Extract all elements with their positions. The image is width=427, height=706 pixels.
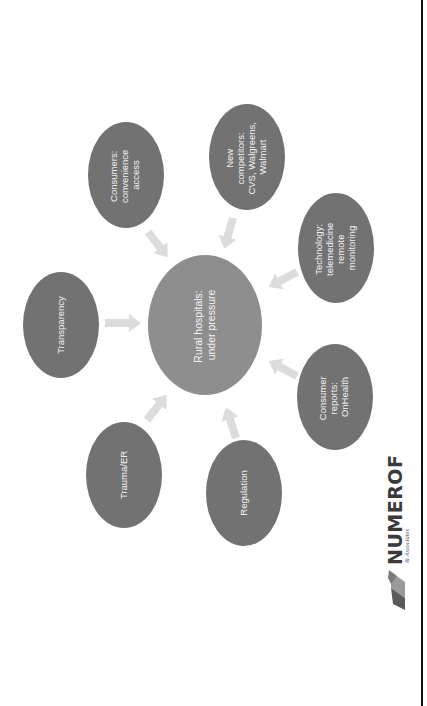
node-label-line: New bbox=[224, 149, 235, 168]
node-consumer-reports: Consumer reports: OnHealth bbox=[297, 344, 373, 450]
node-label-line: OnHealth bbox=[339, 377, 350, 417]
node-label-line: Consumer bbox=[317, 376, 328, 420]
svg-text:Regulation: Regulation bbox=[238, 470, 249, 515]
node-trauma-er: Trauma/ER bbox=[86, 422, 162, 528]
arrow-consumers bbox=[141, 226, 175, 262]
node-label-line: reports: bbox=[328, 382, 339, 414]
arrow-regulation bbox=[218, 405, 245, 441]
arrow-consumer-reports bbox=[265, 353, 302, 384]
node-label-line: Transparency bbox=[55, 296, 66, 354]
center-label-line-2: under pressure bbox=[205, 290, 217, 361]
node-label-line: telemedicine bbox=[324, 223, 335, 276]
node-label-line: access bbox=[130, 160, 141, 190]
node-label-line: Walmart bbox=[257, 139, 268, 174]
slide-canvas: Rural hospitals: under pressure Consumer… bbox=[0, 0, 427, 706]
arrow-new-competitors bbox=[216, 216, 242, 252]
node-regulation: Regulation bbox=[206, 440, 282, 546]
svg-text:Consumer reports:: Consumer reports: OnHealth bbox=[317, 374, 350, 420]
svg-text:Rural hospitals: under: Rural hospitals: under pressure bbox=[192, 287, 217, 362]
arrow-trauma-er bbox=[140, 389, 174, 425]
node-label-line: Trauma/ER bbox=[118, 451, 129, 499]
node-label-line: Technology: bbox=[313, 224, 324, 275]
node-transparency: Transparency bbox=[23, 272, 99, 378]
svg-text:Trauma/ER: Trauma/ER bbox=[118, 451, 129, 499]
diagram-svg: Rural hospitals: under pressure Consumer… bbox=[0, 0, 427, 706]
node-consumers: Consumers: convenience access bbox=[88, 122, 164, 228]
node-label-line: monitoring bbox=[346, 226, 357, 270]
node-technology: Technology: telemedicine remote monitori… bbox=[298, 193, 374, 303]
page-edge-rule bbox=[421, 0, 423, 706]
numerof-logo-mark-icon bbox=[388, 570, 405, 610]
numerof-logo: NUMEROF & Associates bbox=[384, 455, 410, 610]
center-node-rural-hospitals: Rural hospitals: under pressure bbox=[148, 255, 262, 395]
logo-tagline: & Associates bbox=[403, 529, 410, 563]
node-new-competitors: New competitors: CVS, Walgreens, Walmart bbox=[209, 104, 285, 210]
arrow-technology bbox=[265, 264, 302, 295]
node-label-line: Regulation bbox=[238, 470, 249, 515]
node-label-line: Consumers: bbox=[108, 151, 119, 202]
node-label-line: remote bbox=[335, 235, 346, 265]
center-label-line-1: Rural hospitals: bbox=[192, 290, 204, 362]
node-label-line: CVS, Walgreens, bbox=[246, 122, 257, 195]
node-label-line: convenience bbox=[119, 150, 130, 203]
svg-text:Transparency: Transparency bbox=[55, 296, 66, 354]
arrow-transparency bbox=[105, 314, 141, 332]
node-label-line: competitors: bbox=[235, 132, 246, 184]
